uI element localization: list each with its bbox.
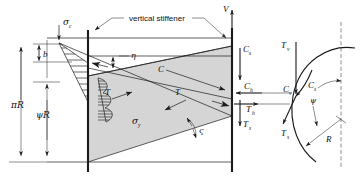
Th-force-subscript: h <box>252 110 255 116</box>
psi-angle-pointer <box>313 106 317 126</box>
shell-arc <box>292 47 355 162</box>
engineering-diagram: σ c σ y b πR ψR <box>0 0 364 184</box>
stiffener-leader-left <box>95 18 112 30</box>
arc-force-diagram: T v C v C s T s ψ R <box>281 22 355 168</box>
Ts2-force-arrow <box>283 96 296 124</box>
Ch-force-subscript: h <box>250 87 253 93</box>
stiffener-leader-right <box>204 18 226 38</box>
R-radius-label: R <box>325 134 332 144</box>
psi-angle-label: ψ <box>310 96 317 105</box>
psiR-dim-label: ψR <box>36 110 50 120</box>
sigma-c-stress-block <box>55 43 92 102</box>
Cs-force-subscript: s <box>249 50 251 56</box>
C-force-label: C <box>158 64 165 74</box>
piR-dim-label: πR <box>10 100 24 110</box>
diagram-canvas: σ c σ y b πR ψR <box>0 0 364 184</box>
Cs2-force-subscript: s <box>314 86 316 92</box>
psi-angle-arc <box>318 81 341 88</box>
sigma-y-subscript: y <box>137 122 141 128</box>
Ts-force-subscript: s <box>249 125 251 131</box>
vertical-stiffener-label: vertical stiffener <box>129 14 185 23</box>
Tv-force-subscript: v <box>287 46 290 52</box>
R-radius-arrow <box>306 119 341 146</box>
eta-label: η <box>131 51 136 60</box>
V-force-label: V <box>223 4 230 14</box>
zeta-label: ς <box>199 126 204 135</box>
Ts2-force-subscript: s <box>287 134 289 140</box>
stiffener-left-load-arrow <box>92 63 108 67</box>
sigma-c-subscript: c <box>69 23 72 29</box>
